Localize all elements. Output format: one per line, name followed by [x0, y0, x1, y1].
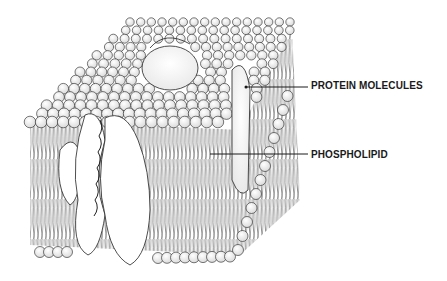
- protein-molecules-label: PROTEIN MOLECULES: [311, 80, 423, 91]
- membrane-diagram: [0, 0, 447, 281]
- phospholipid-label: PHOSPHOLIPID: [311, 149, 388, 160]
